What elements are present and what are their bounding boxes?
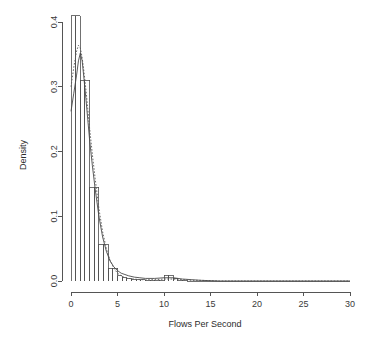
histogram-bar xyxy=(71,16,76,281)
histogram-bar xyxy=(178,280,183,281)
y-axis-tick-label: 0.1 xyxy=(49,210,59,223)
histogram-bar xyxy=(99,244,104,281)
y-axis-tick-label: 0.2 xyxy=(49,145,59,158)
histogram-bar xyxy=(108,268,113,281)
y-axis-tick-label: 0.4 xyxy=(49,16,59,29)
y-axis-tick-label: 0.0 xyxy=(49,275,59,288)
histogram-bars xyxy=(71,16,350,281)
y-axis-title: Density xyxy=(18,139,28,170)
x-axis-title: Flows Per Second xyxy=(168,319,241,329)
x-axis: 051015202530 xyxy=(68,292,355,309)
histogram-bar xyxy=(159,280,164,281)
histogram-bar xyxy=(155,280,160,281)
histogram-bar xyxy=(150,280,155,281)
plot-canvas: 0.00.10.20.30.4 051015202530 Flows Per S… xyxy=(0,0,369,343)
y-axis: 0.00.10.20.30.4 xyxy=(49,16,62,288)
x-axis-tick-label: 5 xyxy=(115,299,120,309)
density-solid xyxy=(71,53,350,281)
density-histogram-chart: 0.00.10.20.30.4 051015202530 Flows Per S… xyxy=(0,0,369,343)
x-axis-tick-label: 30 xyxy=(345,299,355,309)
density-curve-solid xyxy=(71,53,350,281)
y-axis-tick-label: 0.3 xyxy=(49,80,59,93)
x-axis-tick-label: 25 xyxy=(298,299,308,309)
histogram-bar xyxy=(90,187,95,281)
histogram-bar xyxy=(80,80,85,281)
density-dotted xyxy=(71,45,350,281)
x-axis-tick-label: 20 xyxy=(252,299,262,309)
histogram-bar xyxy=(118,276,123,281)
x-axis-tick-label: 15 xyxy=(205,299,215,309)
histogram-bar xyxy=(145,280,150,281)
histogram-bar xyxy=(183,280,188,281)
density-curve-dotted xyxy=(71,45,350,281)
x-axis-tick-label: 10 xyxy=(159,299,169,309)
x-axis-tick-label: 0 xyxy=(68,299,73,309)
